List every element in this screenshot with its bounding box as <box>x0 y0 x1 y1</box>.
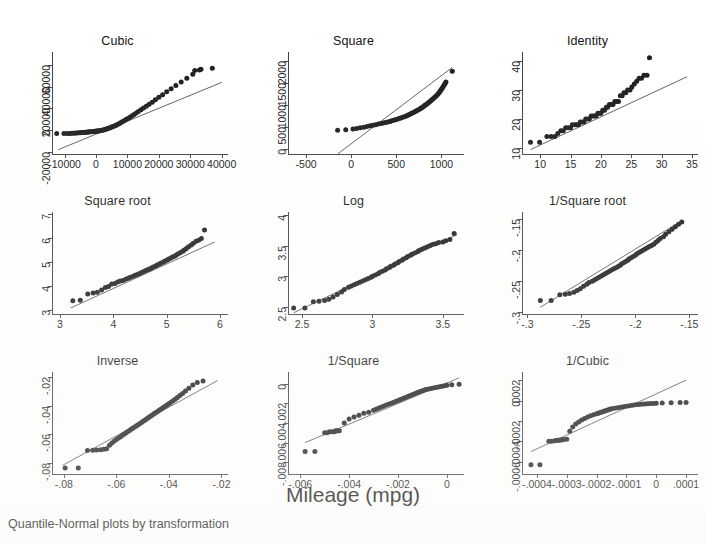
x-tick-label: 20000 <box>144 158 173 170</box>
panel-title: 1/Cubic <box>470 354 705 368</box>
panel-title: Log <box>236 194 471 208</box>
data-point <box>195 380 200 385</box>
figure-canvas: Cubic-200000200004000060000-100000100002… <box>0 0 706 544</box>
y-tick-label: 3 <box>276 276 288 282</box>
data-markers <box>63 379 206 471</box>
data-point <box>335 128 340 133</box>
data-point <box>347 417 352 422</box>
y-tick-label: 4 <box>276 215 288 221</box>
plot-area: 10203040101520253035 <box>522 52 698 154</box>
data-markers <box>335 69 455 133</box>
x-tick-label: 1000 <box>430 158 453 170</box>
x-axis-line <box>288 314 464 315</box>
data-point <box>199 236 204 241</box>
x-tick-label: 10000 <box>113 158 142 170</box>
figure-caption: Quantile-Normal plots by transformation <box>8 517 229 531</box>
y-tick-label: 0 <box>276 149 288 155</box>
data-point <box>95 290 100 295</box>
data-point <box>164 89 169 94</box>
data-point <box>202 228 207 233</box>
panel-title: Identity <box>470 34 705 48</box>
qq-plot-graphics <box>52 372 228 474</box>
y-tick-label: 2000 <box>276 61 288 84</box>
y-tick-label: -.06 <box>40 434 52 452</box>
data-markers <box>291 231 457 311</box>
y-tick-label: 7 <box>40 214 52 220</box>
x-tick-label: 500 <box>388 158 406 170</box>
y-tick-label: -.04 <box>40 406 52 424</box>
qq-panel-log: Log2.533.542.533.5 <box>236 192 471 352</box>
data-point <box>173 83 178 88</box>
data-point <box>322 298 327 303</box>
data-point <box>91 291 96 296</box>
plot-area: 0500100015002000-50005001000 <box>288 52 464 154</box>
data-point <box>679 219 684 224</box>
data-point <box>528 140 533 145</box>
panel-title: Square <box>236 34 471 48</box>
data-point <box>54 131 59 136</box>
y-tick-label: -.0002 <box>510 421 522 451</box>
data-point <box>192 68 197 73</box>
qq-plot-graphics <box>522 372 698 474</box>
data-point <box>352 415 357 420</box>
x-axis-line <box>52 154 228 155</box>
data-point <box>335 292 340 297</box>
data-point <box>356 413 361 418</box>
x-tick-label: -.2 <box>629 318 641 330</box>
data-point <box>63 465 68 470</box>
data-point <box>70 298 75 303</box>
x-tick-label: 30 <box>656 158 668 170</box>
y-tick-label: 30 <box>510 90 522 102</box>
data-point <box>85 448 90 453</box>
plot-area: -200000200004000060000-10000010000200003… <box>52 52 228 154</box>
y-tick-label: .0002 <box>510 380 522 406</box>
panel-title: 1/Square root <box>470 194 705 208</box>
y-tick-label: 3.5 <box>276 246 288 261</box>
x-tick-label: 3.5 <box>436 318 451 330</box>
data-point <box>326 297 331 302</box>
x-axis-line <box>288 474 464 475</box>
data-point <box>78 298 83 303</box>
data-markers <box>303 382 462 454</box>
data-markers <box>70 228 207 304</box>
panel-title: Cubic <box>0 34 235 48</box>
qq-panel-cubic: Cubic-200000200004000060000-100000100002… <box>0 32 235 192</box>
panel-title: 1/Square <box>236 354 471 368</box>
data-point <box>557 292 562 297</box>
qq-panel-identity: Identity10203040101520253035 <box>470 32 705 192</box>
data-point <box>567 291 572 296</box>
x-axis-line <box>288 154 464 155</box>
plot-area: 345673456 <box>52 212 228 314</box>
data-point <box>201 379 206 384</box>
y-tick-label: 0 <box>276 384 288 390</box>
y-tick-label: 4 <box>40 286 52 292</box>
qq-plot-graphics <box>288 52 464 154</box>
data-point <box>684 400 689 405</box>
data-point <box>660 401 665 406</box>
y-tick-label: 1500 <box>276 83 288 106</box>
x-tick-label: -10000 <box>48 158 81 170</box>
data-point <box>669 400 674 405</box>
plot-area: -.0006-.0004-.00020.0002-.0004-.0003-.00… <box>522 372 698 474</box>
data-point <box>654 401 659 406</box>
panel-title: Inverse <box>0 354 235 368</box>
x-tick-label: 0 <box>93 158 99 170</box>
data-point <box>449 382 454 387</box>
plot-area: -.3-.25-.2-.15-.3-.25-.2-.15 <box>522 212 698 314</box>
data-point <box>337 428 342 433</box>
data-point <box>564 437 569 442</box>
data-point <box>169 86 174 91</box>
y-tick-label: 60000 <box>40 65 52 94</box>
data-markers <box>528 400 688 467</box>
x-tick-label: 0 <box>348 158 354 170</box>
x-axis-line <box>522 314 698 315</box>
y-tick-label: -.25 <box>510 281 522 299</box>
panel-title: Square root <box>0 194 235 208</box>
y-tick-label: 10 <box>510 148 522 160</box>
data-point <box>186 386 191 391</box>
y-tick-label: 5 <box>40 262 52 268</box>
data-point <box>452 231 457 236</box>
data-point <box>528 462 533 467</box>
data-point <box>190 383 195 388</box>
y-tick-label: 3 <box>40 310 52 316</box>
